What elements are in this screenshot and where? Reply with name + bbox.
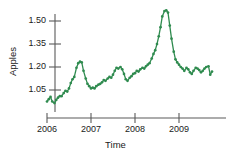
- data-point-marker: [156, 43, 159, 46]
- data-point-marker: [46, 100, 49, 103]
- data-point-marker: [187, 68, 190, 71]
- data-point-marker: [60, 95, 63, 98]
- data-point-marker: [170, 37, 173, 40]
- data-point-marker: [95, 85, 98, 88]
- data-point-marker: [211, 70, 214, 73]
- data-series-markers: [46, 9, 214, 104]
- data-point-marker: [134, 72, 137, 75]
- data-point-marker: [152, 53, 155, 56]
- data-point-marker: [86, 83, 89, 86]
- data-point-marker: [178, 63, 181, 66]
- data-point-marker: [117, 67, 120, 70]
- data-point-marker: [84, 77, 87, 80]
- data-point-marker: [51, 100, 54, 103]
- data-point-marker: [49, 96, 52, 99]
- y-axis-title: Apples: [7, 37, 18, 87]
- data-point-marker: [150, 57, 153, 60]
- data-point-marker: [62, 92, 65, 95]
- y-axis-tick-label: 1.35: [14, 38, 46, 48]
- data-point-marker: [47, 98, 50, 101]
- data-point-marker: [123, 73, 126, 76]
- data-point-marker: [82, 69, 85, 72]
- data-point-marker: [201, 69, 204, 72]
- data-point-marker: [119, 66, 122, 69]
- x-axis-title: Time: [0, 139, 231, 150]
- data-point-marker: [139, 68, 142, 71]
- y-axis-tick-label: 1.05: [14, 84, 46, 94]
- data-point-marker: [157, 35, 160, 38]
- data-point-marker: [93, 87, 96, 90]
- data-point-marker: [75, 66, 78, 69]
- data-point-marker: [183, 69, 186, 72]
- data-point-marker: [110, 76, 113, 79]
- data-point-marker: [88, 85, 91, 88]
- data-point-marker: [137, 70, 140, 73]
- data-point-marker: [121, 68, 124, 71]
- data-point-marker: [209, 73, 212, 76]
- data-point-marker: [190, 73, 193, 76]
- data-point-marker: [69, 82, 72, 85]
- data-point-marker: [130, 75, 133, 78]
- data-point-marker: [174, 58, 177, 61]
- x-axis-tick-label: 2006: [25, 124, 69, 134]
- data-point-marker: [207, 65, 210, 68]
- data-point-marker: [165, 9, 168, 12]
- data-point-marker: [73, 76, 76, 79]
- axis-lines: [47, 14, 226, 118]
- data-point-marker: [80, 61, 83, 64]
- data-point-marker: [167, 11, 170, 14]
- data-point-marker: [112, 73, 115, 76]
- data-point-marker: [101, 81, 104, 84]
- x-axis-tick-label: 2008: [113, 124, 157, 134]
- data-point-marker: [55, 99, 58, 102]
- data-point-marker: [66, 90, 69, 93]
- y-axis-tick-label: 1.50: [14, 15, 46, 25]
- data-point-marker: [71, 78, 74, 81]
- chart-figure: 1.051.201.351.50 2006200720082009 Apples…: [0, 0, 231, 157]
- data-point-marker: [181, 67, 184, 70]
- y-axis-tick-label: 1.20: [14, 61, 46, 71]
- data-point-marker: [104, 79, 107, 82]
- data-point-marker: [68, 87, 71, 90]
- data-point-marker: [113, 69, 116, 72]
- data-point-marker: [143, 67, 146, 70]
- data-point-marker: [168, 24, 171, 27]
- data-point-marker: [192, 69, 195, 72]
- x-axis-tick-label: 2009: [157, 124, 201, 134]
- data-series-line: [47, 10, 212, 103]
- data-point-marker: [154, 49, 157, 52]
- data-point-marker: [198, 69, 201, 72]
- data-point-marker: [126, 79, 129, 82]
- data-point-marker: [161, 15, 164, 18]
- data-point-marker: [159, 26, 162, 29]
- data-point-marker: [148, 62, 151, 65]
- data-point-marker: [176, 61, 179, 64]
- data-point-marker: [53, 102, 56, 105]
- data-point-marker: [172, 50, 175, 53]
- x-axis-tick-label: 2007: [69, 124, 113, 134]
